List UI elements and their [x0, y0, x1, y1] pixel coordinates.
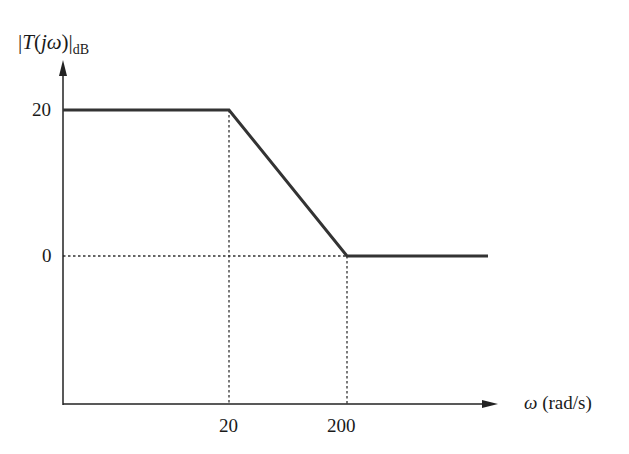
x-axis-label: ω (rad/s) [524, 393, 592, 412]
y-label-paren-open: ( [34, 30, 41, 54]
y-axis-arrow-icon [59, 60, 67, 76]
x-tick-20: 20 [219, 416, 238, 435]
bode-plot [0, 0, 629, 454]
magnitude-curve [63, 110, 488, 256]
y-axis-label: |T(jω)|dB [18, 32, 89, 53]
y-label-arg: jω [41, 30, 62, 54]
y-label-paren-close: ) [62, 30, 69, 54]
x-label-symbol: ω [524, 392, 537, 413]
y-label-subscript: dB [73, 42, 89, 57]
x-label-unit: (rad/s) [542, 392, 592, 413]
y-label-func: T [22, 30, 34, 54]
x-tick-200: 200 [327, 416, 356, 435]
y-tick-20: 20 [32, 100, 51, 119]
y-tick-0: 0 [42, 246, 52, 265]
x-axis-arrow-icon [482, 400, 498, 408]
